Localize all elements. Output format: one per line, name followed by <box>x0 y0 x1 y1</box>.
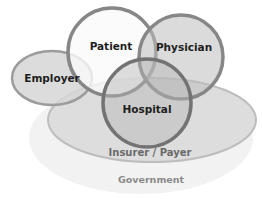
stakeholder-venn-diagram: Patient Physician Employer Hospital Insu… <box>0 0 262 199</box>
insurer-payer-label: Insurer / Payer <box>109 147 192 158</box>
government-label: Government <box>118 174 185 185</box>
hospital-label: Hospital <box>122 103 171 115</box>
physician-label: Physician <box>156 41 212 53</box>
employer-label: Employer <box>24 72 80 84</box>
patient-label: Patient <box>90 40 133 52</box>
